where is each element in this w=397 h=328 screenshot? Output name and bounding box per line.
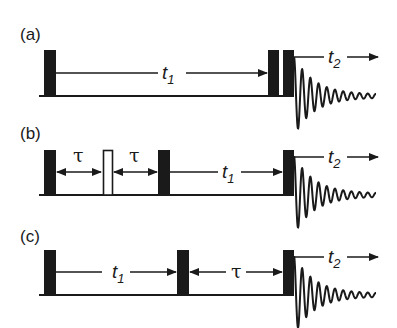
panel-b: (b) τ τ t1 t2: [20, 124, 378, 227]
panel-label-a: (a): [20, 25, 41, 44]
pulse-filled: [177, 250, 189, 295]
tau-label: τ: [231, 260, 242, 282]
pulse-filled: [283, 250, 294, 295]
t1-label: t1: [222, 161, 235, 186]
panel-label-c: (c): [20, 227, 40, 246]
pulse-filled: [158, 150, 170, 195]
pulse-open: [104, 151, 113, 196]
panel-c: (c) t1 τ t2: [20, 227, 378, 327]
pulse-filled: [283, 50, 294, 96]
panel-a: (a) t1 t2: [20, 25, 378, 128]
t2-label: t2: [328, 46, 341, 71]
pulse-filled: [283, 150, 294, 195]
pulse-filled: [44, 150, 56, 195]
t2-label: t2: [328, 246, 341, 271]
t1-label: t1: [162, 62, 175, 87]
pulse-filled: [44, 250, 56, 295]
panel-label-b: (b): [20, 124, 41, 143]
pulse-sequence-diagram: (a) t1 t2 (b) τ τ t1 t2 (c): [0, 0, 397, 328]
pulse-filled: [44, 50, 56, 96]
pulse-filled: [268, 50, 279, 96]
tau-label: τ: [73, 144, 84, 166]
t1-label: t1: [112, 261, 125, 286]
t2-label: t2: [328, 146, 341, 171]
tau-label: τ: [129, 144, 140, 166]
